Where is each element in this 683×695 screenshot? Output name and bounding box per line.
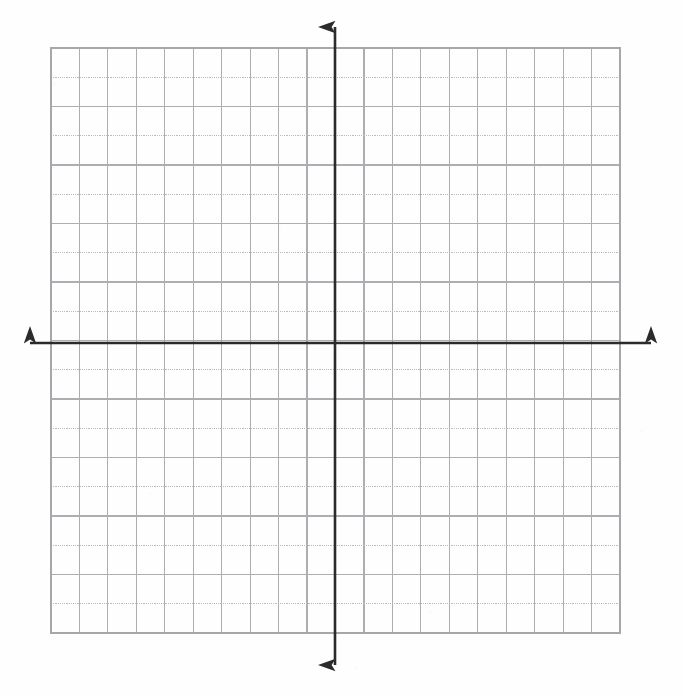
graph-paper-worksheet: [0, 0, 683, 695]
axes: [30, 27, 651, 665]
coordinate-plane: [0, 0, 683, 695]
